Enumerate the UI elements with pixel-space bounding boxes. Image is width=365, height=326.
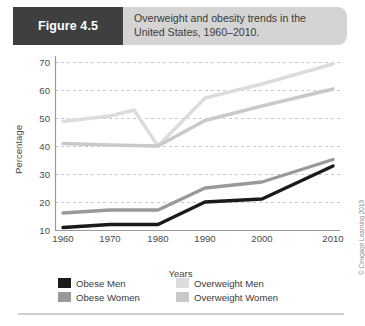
legend-item-overweight-women: Overweight Women — [176, 292, 308, 303]
figure-header-banner: Figure 4.5 Overweight and obesity trends… — [13, 7, 347, 45]
legend-label-overweight-men: Overweight Men — [194, 278, 264, 289]
figure-title: Overweight and obesity trends in the Uni… — [134, 11, 339, 39]
x-tick-label-2010: 2010 — [311, 234, 355, 244]
legend-item-obese-men: Obese Men — [58, 278, 176, 289]
x-tick-label-1990: 1990 — [183, 234, 227, 244]
x-tick-label-1970: 1970 — [88, 234, 132, 244]
legend-item-obese-women: Obese Women — [58, 292, 176, 303]
x-tick-label-1980: 1980 — [136, 234, 180, 244]
chart-plot-area: Percentage 70 60 50 40 30 20 10 — [0, 52, 361, 252]
figure-title-line-1: Overweight and obesity trends in the — [134, 11, 339, 25]
legend-swatch-icon-obese-men — [58, 278, 71, 288]
figure-title-line-2: United States, 1960–2010. — [134, 25, 339, 39]
x-tick-label-1960: 1960 — [41, 234, 85, 244]
legend-swatch-icon-overweight-men — [176, 278, 189, 288]
copyright-notice: © Cengage Learning 2013 — [358, 200, 365, 275]
legend-label-obese-women: Obese Women — [76, 292, 140, 303]
series-line-obese-men — [63, 166, 333, 228]
footer-divider — [18, 313, 344, 315]
legend-label-overweight-women: Overweight Women — [194, 292, 278, 303]
figure-number-tag: Figure 4.5 — [13, 7, 123, 45]
legend-swatch-icon-obese-women — [58, 292, 71, 302]
chart-svg — [0, 52, 361, 252]
legend-label-obese-men: Obese Men — [76, 278, 126, 289]
x-tick-label-2000: 2000 — [240, 234, 284, 244]
legend-swatch-icon-overweight-women — [176, 292, 189, 302]
figure-number-label: Figure 4.5 — [38, 19, 98, 33]
chart-legend: Obese Men Overweight Men Obese Women Ove… — [58, 276, 308, 304]
legend-item-overweight-men: Overweight Men — [176, 278, 308, 289]
series-line-overweight-men — [63, 64, 333, 146]
